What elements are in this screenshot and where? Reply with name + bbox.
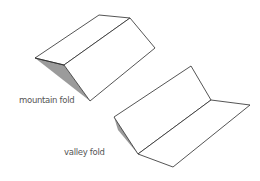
- mountain-fold-shape: [35, 15, 155, 101]
- valley-fold-label: valley fold: [64, 147, 105, 157]
- mountain-fold-label: mountain fold: [19, 95, 74, 105]
- fold-diagram: [0, 0, 260, 181]
- valley-fold-shape: [114, 66, 250, 167]
